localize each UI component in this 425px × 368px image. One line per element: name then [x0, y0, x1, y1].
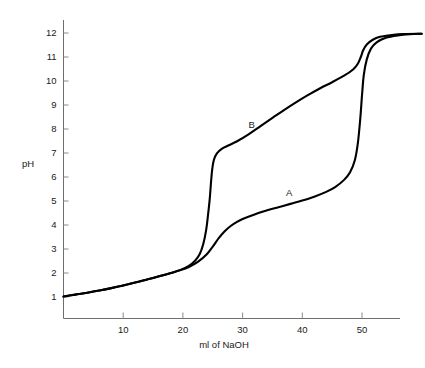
- x-tick-label: 30: [237, 324, 248, 335]
- y-tick-label: 5: [51, 195, 56, 206]
- x-axis-title: ml of NaOH: [199, 339, 249, 350]
- curve-group: [64, 34, 422, 297]
- x-axis-ticks: 1020304050: [118, 313, 367, 336]
- y-tick-label: 3: [51, 243, 56, 254]
- titration-curve-chart: 123456789101112 1020304050 pH ml of NaOH…: [0, 0, 425, 368]
- x-tick-label: 20: [178, 324, 189, 335]
- x-tick-label: 50: [357, 324, 368, 335]
- y-tick-label: 9: [51, 99, 56, 110]
- y-tick-label: 7: [51, 147, 56, 158]
- curve-label-b: B: [248, 119, 254, 130]
- y-tick-label: 10: [46, 75, 57, 86]
- y-tick-label: 2: [51, 267, 56, 278]
- y-tick-label: 12: [46, 27, 57, 38]
- y-axis-ticks: 123456789101112: [46, 27, 69, 302]
- chart-figure: 123456789101112 1020304050 pH ml of NaOH…: [0, 0, 425, 368]
- y-tick-label: 6: [51, 171, 56, 182]
- y-axis-title: pH: [22, 158, 34, 169]
- x-tick-label: 10: [118, 324, 129, 335]
- y-tick-label: 4: [51, 219, 56, 230]
- y-tick-label: 1: [51, 291, 56, 302]
- y-tick-label: 11: [47, 51, 57, 62]
- x-tick-label: 40: [297, 324, 308, 335]
- curve-b: [64, 34, 422, 297]
- curve-a: [64, 34, 422, 297]
- y-tick-label: 8: [51, 123, 56, 134]
- curve-label-a: A: [286, 187, 293, 198]
